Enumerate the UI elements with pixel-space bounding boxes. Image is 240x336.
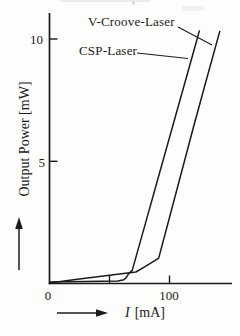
laser-pi-characteristic-figure: 10 5 0 100 Output Power [mW] I[mA] V-Cro… xyxy=(0,0,240,336)
csp-laser-curve xyxy=(50,30,200,282)
x-tick-label-0: 0 xyxy=(38,289,58,302)
x-axis-symbol: I xyxy=(125,305,130,320)
x-axis-title: I[mA] xyxy=(125,305,165,321)
y-tick-label-10: 10 xyxy=(13,33,43,46)
curve-label-v-groove: V-Croove-Laser xyxy=(88,15,175,28)
x-axis-unit: [mA] xyxy=(135,305,165,320)
y-axis-title: Output Power [mW] xyxy=(16,58,34,220)
y-axis-direction-arrow-icon xyxy=(15,217,23,270)
x-axis-direction-arrow-icon xyxy=(57,309,108,316)
axis-ticks xyxy=(50,39,170,283)
v-groove-pointer-line xyxy=(178,27,212,45)
x-tick-label-100: 100 xyxy=(154,289,184,302)
v-groove-laser-curve xyxy=(50,31,220,283)
csp-pointer-line xyxy=(137,53,188,59)
curve-label-csp: CSP-Laser xyxy=(79,44,137,57)
